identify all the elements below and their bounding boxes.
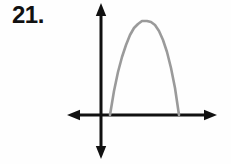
figure-container: 21. bbox=[0, 0, 231, 164]
parabola-group bbox=[110, 21, 179, 115]
x-axis-left-arrowhead bbox=[67, 110, 80, 120]
y-axis-bottom-arrowhead bbox=[96, 146, 106, 159]
coordinate-plane-graph bbox=[0, 0, 231, 164]
downward-parabola-curve bbox=[110, 21, 179, 115]
axes-group bbox=[67, 3, 217, 159]
y-axis-top-arrowhead bbox=[96, 3, 106, 16]
x-axis-right-arrowhead bbox=[204, 110, 217, 120]
